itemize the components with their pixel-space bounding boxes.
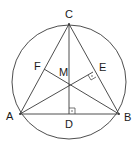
label-f: F — [34, 60, 41, 72]
point-c — [68, 23, 70, 25]
right-angle-dot-d — [71, 110, 72, 111]
point-a — [19, 113, 21, 115]
label-c: C — [65, 8, 73, 20]
label-b: B — [124, 111, 131, 123]
label-d: D — [65, 118, 73, 130]
label-m: M — [59, 66, 68, 78]
label-e: E — [99, 61, 106, 73]
altitude-bf — [44, 69, 119, 114]
label-a: A — [6, 110, 14, 122]
segment-bc — [69, 24, 119, 114]
right-angle-dot-e — [91, 75, 92, 76]
point-b — [118, 113, 120, 115]
triangle-diagram: C A B D E F M — [0, 0, 138, 153]
